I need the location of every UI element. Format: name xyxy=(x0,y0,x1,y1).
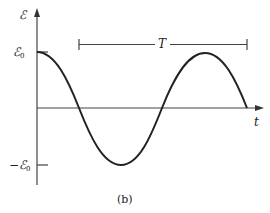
t-axis-label: t xyxy=(254,116,259,128)
e0-symbol: ℰ xyxy=(13,45,20,59)
neg-e0-prefix: − xyxy=(9,158,19,172)
e0-label: ℰ0 xyxy=(13,46,24,60)
y-axis-arrow-icon xyxy=(34,8,40,17)
t-axis-arrow-icon xyxy=(255,105,264,111)
figure-caption: (b) xyxy=(117,194,133,205)
e0-subscript: 0 xyxy=(20,52,24,60)
y-axis-label: ℰ xyxy=(19,9,26,21)
neg-e0-subscript: 0 xyxy=(26,165,30,173)
neg-e0-label: −ℰ0 xyxy=(9,159,31,173)
period-label: T xyxy=(158,38,166,50)
neg-e0-symbol: ℰ xyxy=(19,158,26,172)
waveform-diagram xyxy=(0,0,270,213)
